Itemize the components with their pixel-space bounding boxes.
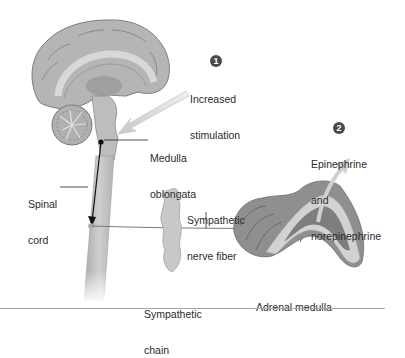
epinephrine-label: Epinephrine and norepinephrine: [311, 134, 381, 254]
spinal-cord-label: Spinal cord: [28, 174, 57, 258]
sympathetic-nerve-fiber-label: Sympathetic nerve fiber: [187, 190, 245, 274]
step-1-badge: 1: [210, 55, 222, 67]
brain: [32, 20, 169, 109]
brainstem: [92, 96, 118, 160]
sympathetic-chain-label: Sympathetic chain: [144, 284, 202, 358]
increased-stimulation-label: Increased stimulation: [190, 69, 240, 153]
step-2-badge: 2: [333, 122, 345, 134]
bottom-divider: [0, 308, 385, 309]
adrenal-medulla-label: Adrenal medulla: [256, 277, 332, 325]
cerebellum: [52, 105, 92, 145]
